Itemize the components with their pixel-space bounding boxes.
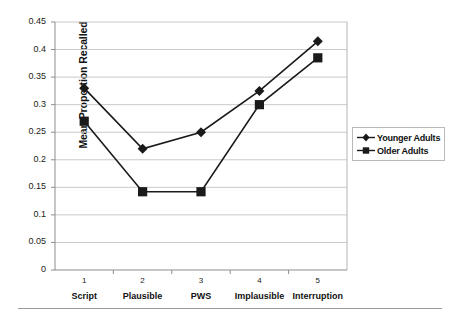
square-marker-icon [255, 100, 264, 109]
square-marker-icon [138, 187, 147, 196]
square-marker-icon [196, 187, 205, 196]
square-marker-icon [356, 145, 376, 156]
legend-label-younger-adults: Younger Adults [377, 133, 440, 143]
footer-divider [18, 308, 442, 309]
axis-lines [55, 22, 347, 270]
legend-label-older-adults: Older Adults [377, 146, 428, 156]
data-series-layer [79, 36, 323, 196]
diamond-marker-icon [356, 132, 376, 143]
legend-item-younger-adults[interactable]: Younger Adults [356, 131, 442, 144]
square-marker-icon [80, 117, 89, 126]
chart-legend: Younger Adults Older Adults [352, 127, 445, 161]
line-chart-figure: Mean Proportion Recalled 00.050.10.150.2… [0, 0, 458, 320]
legend-item-older-adults[interactable]: Older Adults [356, 144, 442, 157]
y-axis-tick-marks [51, 22, 55, 270]
square-marker-icon [313, 53, 322, 62]
diamond-marker-icon [196, 127, 206, 137]
